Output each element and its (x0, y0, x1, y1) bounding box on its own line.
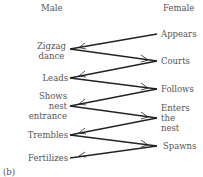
male-step-leads: Leads (42, 73, 68, 83)
male-step-shows-nest-entrance: Shows nest entrance (29, 91, 67, 121)
male-step-zigzag-dance: Zigzag dance (37, 41, 66, 61)
male-step-trembles: Trembles (28, 130, 68, 140)
female-step-enters-line3: nest (161, 123, 190, 133)
male-step-zigzag-line2: dance (37, 51, 66, 61)
female-step-courts: Courts (161, 56, 190, 66)
female-header: Female (163, 3, 194, 13)
male-step-shows-line2: nest (29, 101, 67, 111)
male-step-zigzag-line1: Zigzag (37, 41, 66, 51)
female-step-spawns: Spawns (163, 141, 196, 151)
male-step-fertilizes: Fertilizes (28, 153, 68, 163)
male-step-shows-line3: entrance (29, 111, 67, 121)
female-step-appears: Appears (161, 29, 197, 39)
female-step-follows: Follows (161, 84, 194, 94)
female-step-enters-line2: the (161, 113, 190, 123)
panel-label: (b) (3, 167, 15, 177)
male-step-shows-line1: Shows (29, 91, 67, 101)
female-step-enters-nest: Enters the nest (161, 103, 190, 133)
female-step-enters-line1: Enters (161, 103, 190, 113)
male-header: Male (41, 3, 63, 13)
